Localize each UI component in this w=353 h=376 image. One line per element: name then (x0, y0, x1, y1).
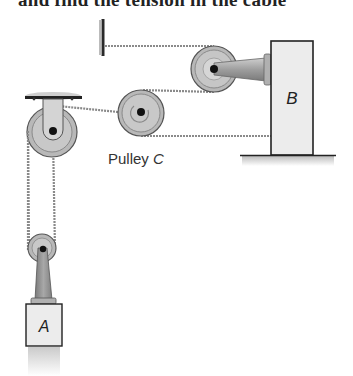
ground-b (240, 156, 336, 167)
hub-icon (40, 246, 46, 252)
block-a: A (26, 304, 62, 376)
pulley-c-label: Pulley C (108, 150, 164, 167)
hub-icon (49, 127, 57, 135)
left-fixed-pulley (25, 92, 82, 157)
pulley-c (118, 90, 164, 136)
block-b-label: B (286, 89, 297, 108)
block-b: B (271, 41, 313, 155)
lower-moving-pulley (28, 234, 56, 304)
hub-icon (137, 108, 145, 116)
pulley-system-diagram: B A Pulley C (0, 0, 353, 376)
wall-anchor (99, 19, 105, 56)
hub-icon (210, 65, 218, 73)
block-a-label: A (38, 318, 50, 335)
